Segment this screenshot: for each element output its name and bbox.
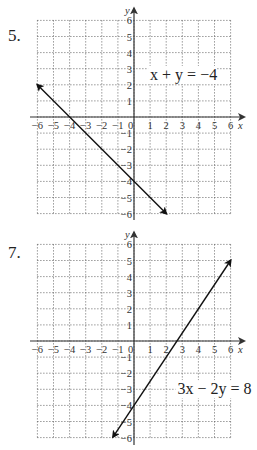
x-axis-label: x <box>237 344 243 355</box>
x-tick-label: 4 <box>196 120 202 131</box>
problem-7: 7. −6−5−4−3−2−10123456654321−1−2−3−4−5−6… <box>0 225 257 450</box>
equation-line <box>37 85 166 214</box>
x-tick-label: 6 <box>228 120 233 131</box>
graph-7: −6−5−4−3−2−10123456654321−1−2−3−4−5−6xy3… <box>0 225 257 450</box>
y-tick-label: 5 <box>127 256 132 267</box>
y-tick-label: −1 <box>121 128 132 139</box>
y-tick-label: 5 <box>127 32 132 43</box>
problem-5: 5. −6−5−4−3−2−10123456654321−1−2−3−4−5−6… <box>0 0 257 225</box>
y-tick-label: 1 <box>127 96 132 107</box>
y-tick-label: 2 <box>127 304 132 315</box>
x-tick-label: −3 <box>80 344 91 355</box>
y-tick-label: 6 <box>127 239 132 250</box>
y-tick-label: 4 <box>127 272 133 283</box>
equation-label: 3x − 2y = 8 <box>177 380 251 398</box>
y-tick-label: 6 <box>127 15 132 26</box>
y-tick-label: 1 <box>127 320 132 331</box>
x-tick-label: −4 <box>64 344 76 355</box>
x-tick-label: 3 <box>180 120 185 131</box>
y-tick-label: −2 <box>121 368 132 379</box>
y-tick-label: −5 <box>121 193 132 204</box>
y-axis-label: y <box>124 229 130 240</box>
y-tick-label: −1 <box>121 352 132 363</box>
equation-label: x + y = −4 <box>150 66 217 84</box>
y-tick-label: −6 <box>121 209 132 220</box>
x-tick-label: 5 <box>212 120 217 131</box>
x-tick-label: −2 <box>96 120 107 131</box>
y-tick-label: −3 <box>121 384 132 395</box>
x-tick-label: −5 <box>48 344 59 355</box>
graph-5: −6−5−4−3−2−10123456654321−1−2−3−4−5−6xyx… <box>0 0 257 225</box>
x-tick-label: 4 <box>196 344 202 355</box>
y-tick-label: −2 <box>121 144 132 155</box>
x-tick-label: 3 <box>180 344 185 355</box>
y-tick-label: −6 <box>121 433 132 444</box>
x-tick-label: −6 <box>32 344 43 355</box>
x-tick-label: 1 <box>147 344 152 355</box>
y-tick-label: 3 <box>127 64 132 75</box>
x-axis-label: x <box>237 120 243 131</box>
x-tick-label: −2 <box>96 344 107 355</box>
x-tick-label: 6 <box>228 344 233 355</box>
y-axis-label: y <box>124 5 130 16</box>
x-tick-label: 2 <box>164 120 169 131</box>
x-tick-label: 1 <box>147 120 152 131</box>
y-tick-label: 2 <box>127 80 132 91</box>
x-tick-label: −5 <box>48 120 59 131</box>
y-tick-label: 3 <box>127 288 132 299</box>
y-tick-label: 4 <box>127 48 133 59</box>
x-tick-label: −6 <box>32 120 43 131</box>
x-tick-label: 5 <box>212 344 217 355</box>
